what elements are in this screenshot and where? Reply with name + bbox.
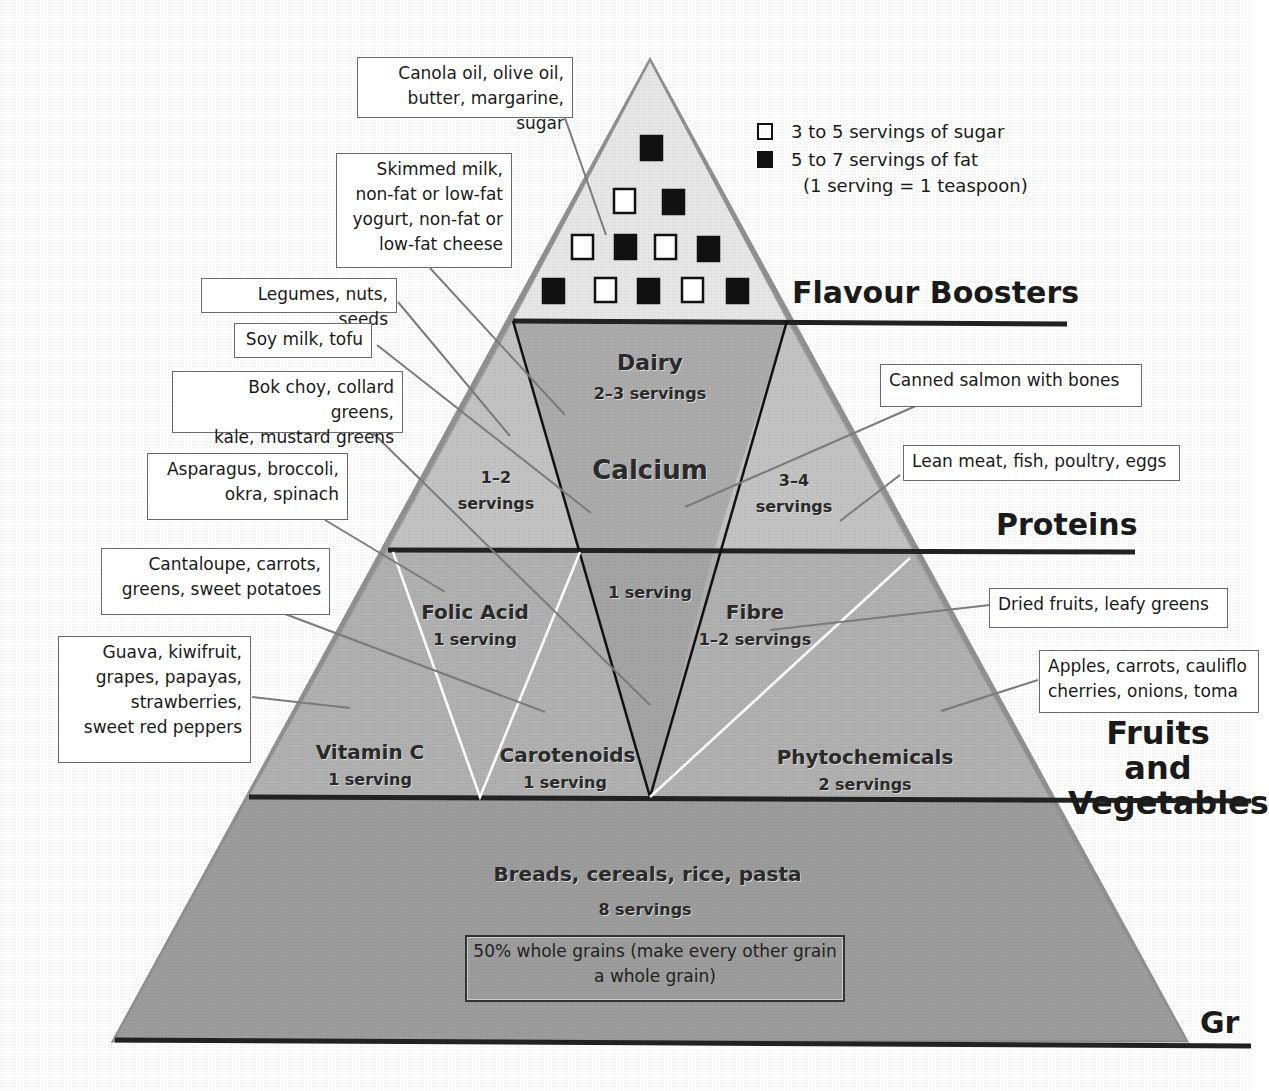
- open-square-icon: [757, 123, 773, 140]
- legend-note: (1 serving = 1 teaspoon): [757, 172, 1028, 200]
- callout-soy: Soy milk, tofu: [234, 323, 372, 358]
- legend-fat: 5 to 7 servings of fat: [757, 146, 1028, 174]
- fibre-servings: 1–2 servings: [690, 630, 820, 649]
- vitamin-c-servings: 1 serving: [310, 770, 430, 789]
- vitamin-c-title: Vitamin C: [300, 740, 440, 764]
- calcium-title: Calcium: [570, 455, 730, 485]
- callout-asparagus: Asparagus, broccoli, okra, spinach: [147, 453, 348, 520]
- legend-sugar: 3 to 5 servings of sugar: [757, 118, 1028, 146]
- grains-title: Breads, cereals, rice, pasta: [470, 862, 825, 886]
- callout-apples: Apples, carrots, cauliflo cherries, onio…: [1039, 650, 1259, 713]
- callout-dried-fruits: Dried fruits, leafy greens: [989, 588, 1228, 628]
- tier-label-flavour-boosters: Flavour Boosters: [792, 276, 1079, 309]
- dairy-servings: 2–3 servings: [575, 384, 725, 403]
- filled-square-icon: [757, 151, 773, 168]
- folic-acid-servings: 1 serving: [415, 630, 535, 649]
- callout-canned-salmon: Canned salmon with bones: [880, 364, 1142, 407]
- callout-guava: Guava, kiwifruit, grapes, papayas, straw…: [58, 636, 251, 763]
- callout-cantaloupe: Cantaloupe, carrots, greens, sweet potat…: [101, 548, 330, 615]
- callout-oils: Canola oil, olive oil, butter, margarine…: [357, 57, 573, 118]
- phytochemicals-servings: 2 servings: [795, 775, 935, 794]
- center-wedge-servings: 1 serving: [590, 583, 710, 602]
- callout-bok-choy: Bok choy, collard greens, kale, mustard …: [172, 371, 403, 433]
- carotenoids-servings: 1 serving: [505, 773, 625, 792]
- carotenoids-title: Carotenoids: [490, 743, 645, 767]
- callout-lean-meat: Lean meat, fish, poultry, eggs: [903, 445, 1180, 481]
- grains-servings: 8 servings: [570, 900, 720, 919]
- fibre-title: Fibre: [705, 600, 805, 624]
- folic-acid-title: Folic Acid: [405, 600, 545, 624]
- tier-label-proteins: Proteins: [996, 508, 1138, 541]
- left-protein-servings: 1–2 servings: [446, 465, 546, 517]
- callout-legumes: Legumes, nuts, seeds: [201, 278, 397, 313]
- dairy-title: Dairy: [580, 350, 720, 375]
- whole-grains-box: 50% whole grains (make every other grain…: [465, 935, 845, 1002]
- tier-label-fruits-vegetables: Fruits and Vegetables: [1068, 716, 1248, 822]
- phytochemicals-title: Phytochemicals: [765, 745, 965, 769]
- callout-dairy-foods: Skimmed milk, non-fat or low-fat yogurt,…: [336, 153, 512, 268]
- tier-label-grains: Gr: [1200, 1006, 1239, 1039]
- right-protein-servings: 3–4 servings: [744, 468, 844, 520]
- legend: 3 to 5 servings of sugar 5 to 7 servings…: [757, 118, 1028, 200]
